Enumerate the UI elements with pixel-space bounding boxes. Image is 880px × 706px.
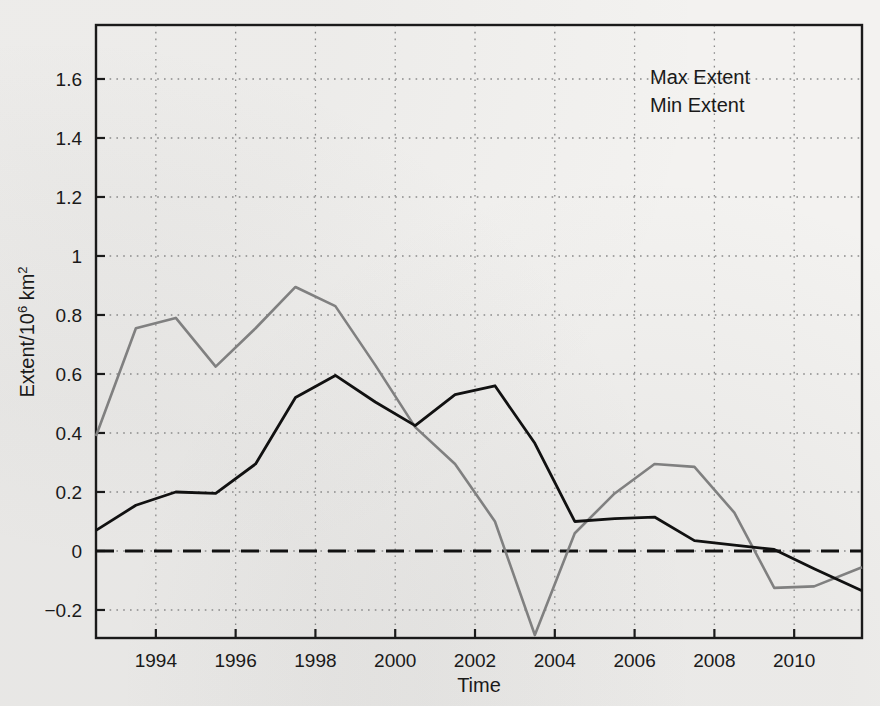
x-tick-label: 1994 — [135, 650, 178, 671]
x-tick-label: 2000 — [374, 650, 416, 671]
y-tick-label: 1.4 — [56, 128, 83, 149]
line-chart: −0.200.20.40.60.811.21.41.6 199419961998… — [0, 0, 880, 706]
x-tick-label: 2010 — [773, 650, 815, 671]
y-tick-label: −0.2 — [44, 600, 82, 621]
y-axis-title-exponent: 6 — [15, 306, 30, 313]
x-tick-label: 2008 — [693, 650, 735, 671]
x-axis-title: Time — [457, 674, 501, 696]
x-tick-label: 1998 — [294, 650, 336, 671]
series-line-min-extent — [96, 287, 862, 635]
series-line-max-extent — [96, 375, 862, 590]
y-axis-title: Extent/106 km2 — [15, 266, 38, 397]
x-tick-label: 2004 — [534, 650, 577, 671]
y-tick-label: 1.6 — [56, 69, 82, 90]
legend: Max Extent Min Extent — [650, 66, 750, 116]
y-tick-label: 1 — [71, 246, 82, 267]
legend-item-min-extent: Min Extent — [650, 94, 745, 116]
x-tick-label: 1996 — [214, 650, 256, 671]
legend-item-max-extent: Max Extent — [650, 66, 750, 88]
y-tick-label: 1.2 — [56, 187, 82, 208]
y-tick-label: 0.8 — [56, 305, 82, 326]
y-tick-label: 0.4 — [56, 423, 83, 444]
y-tick-label: 0.2 — [56, 482, 82, 503]
y-tick-label: 0.6 — [56, 364, 82, 385]
x-axis-tick-labels: 199419961998200020022004200620082010 — [135, 650, 816, 671]
y-axis-title-unit-exponent: 2 — [15, 266, 30, 273]
y-tick-label: 0 — [71, 541, 82, 562]
y-axis-title-base: Extent/10 — [16, 313, 38, 398]
x-axis-ticks — [156, 629, 794, 638]
y-axis-tick-labels: −0.200.20.40.60.811.21.41.6 — [44, 69, 82, 621]
y-axis-title-group: Extent/106 km2 — [15, 266, 38, 397]
x-tick-label: 2002 — [454, 650, 496, 671]
x-tick-label: 2006 — [613, 650, 655, 671]
scanned-figure-page: −0.200.20.40.60.811.21.41.6 199419961998… — [0, 0, 880, 706]
y-axis-title-unit: km — [16, 274, 38, 306]
